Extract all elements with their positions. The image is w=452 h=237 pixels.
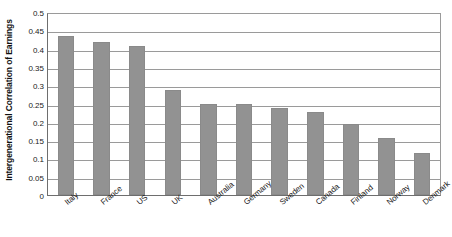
bar-italy[interactable] — [58, 36, 74, 195]
bar-slot — [155, 14, 191, 195]
bars-container — [48, 14, 440, 195]
bar-slot — [297, 14, 333, 195]
y-axis-tick: 0.05 — [28, 173, 44, 182]
bar-slot — [48, 14, 84, 195]
x-tick-slot: Denmark — [405, 197, 441, 237]
y-axis-tick: 0 — [40, 192, 44, 201]
y-axis-tick: 0.5 — [33, 9, 44, 18]
y-axis-tick: 0.1 — [33, 155, 44, 164]
bar-slot — [191, 14, 227, 195]
bar-finland[interactable] — [343, 124, 359, 195]
x-tick-slot: Italy — [47, 197, 83, 237]
bar-canada[interactable] — [307, 112, 323, 195]
y-axis-tick: 0.35 — [28, 63, 44, 72]
bar-us[interactable] — [129, 46, 145, 195]
bar-slot — [369, 14, 405, 195]
y-axis-title: Intergenerational Correlation of Earning… — [0, 0, 18, 200]
plot-area — [47, 13, 441, 196]
bar-slot — [262, 14, 298, 195]
bar-australia[interactable] — [200, 104, 216, 195]
bar-sweden[interactable] — [271, 108, 287, 195]
x-tick-slot: Norway — [369, 197, 405, 237]
y-axis-tick: 0.25 — [28, 100, 44, 109]
x-tick-slot: Germany — [226, 197, 262, 237]
x-axis-tick-labels: ItalyFranceUSUKAustraliaGermanySwedenCan… — [47, 197, 441, 237]
x-tick-slot: Canada — [298, 197, 334, 237]
x-tick-slot: US — [119, 197, 155, 237]
y-axis-tick: 0.45 — [28, 27, 44, 36]
bar-slot — [84, 14, 120, 195]
bar-uk[interactable] — [165, 90, 181, 195]
bar-france[interactable] — [93, 42, 109, 195]
bar-slot — [226, 14, 262, 195]
bar-slot — [333, 14, 369, 195]
y-axis-tick: 0.2 — [33, 118, 44, 127]
x-tick-slot: UK — [154, 197, 190, 237]
bar-slot — [404, 14, 440, 195]
x-tick-slot: Sweden — [262, 197, 298, 237]
x-tick-slot: France — [83, 197, 119, 237]
y-axis-tick: 0.15 — [28, 137, 44, 146]
y-axis-title-label: Intergenerational Correlation of Earning… — [4, 19, 14, 181]
bar-slot — [119, 14, 155, 195]
x-tick-slot: Australia — [190, 197, 226, 237]
bar-germany[interactable] — [236, 104, 252, 195]
y-axis-tick: 0.3 — [33, 82, 44, 91]
y-axis-tick: 0.4 — [33, 45, 44, 54]
x-tick-slot: Finland — [334, 197, 370, 237]
bar-norway[interactable] — [378, 138, 394, 195]
y-axis-tick-labels: 0.50.450.40.350.30.250.20.150.10.050 — [18, 0, 46, 200]
bar-denmark[interactable] — [414, 153, 430, 195]
